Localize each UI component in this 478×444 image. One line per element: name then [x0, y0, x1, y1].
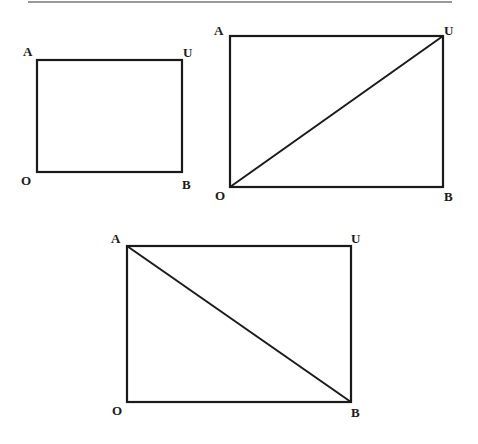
figure-1: A U O B — [21, 44, 193, 192]
rectangle — [37, 60, 182, 172]
figure-2: A U O B — [214, 23, 454, 204]
vertex-label-o: O — [21, 173, 31, 188]
vertex-label-a: A — [111, 231, 121, 246]
vertex-label-b: B — [444, 189, 453, 204]
diagonal-o-u — [230, 36, 443, 187]
vertex-label-a: A — [214, 23, 224, 38]
figure-3: A U O B — [111, 231, 361, 420]
diagram-canvas: A U O B A U O B A U O B — [0, 0, 478, 444]
vertex-label-o: O — [112, 403, 122, 418]
vertex-label-o: O — [215, 188, 225, 203]
vertex-label-a: A — [23, 44, 33, 59]
vertex-label-u: U — [183, 45, 193, 60]
vertex-label-u: U — [444, 23, 454, 38]
vertex-label-u: U — [351, 231, 361, 246]
vertex-label-b: B — [351, 405, 360, 420]
diagonal-a-b — [127, 246, 351, 402]
vertex-label-b: B — [182, 177, 191, 192]
